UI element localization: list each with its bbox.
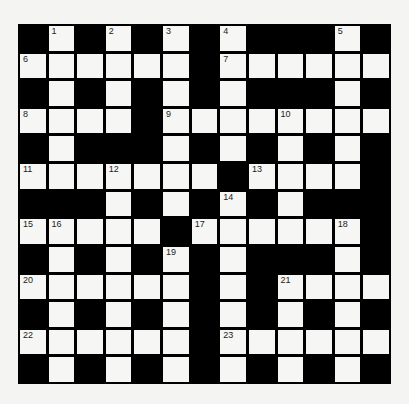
answer-cell[interactable] [306,109,332,134]
answer-cell[interactable] [249,219,275,244]
answer-cell[interactable]: 22 [20,330,46,355]
answer-cell[interactable] [220,357,246,382]
answer-cell[interactable] [134,219,160,244]
answer-cell[interactable]: 17 [192,219,218,244]
answer-cell[interactable] [192,164,218,189]
answer-cell[interactable] [335,81,361,106]
answer-cell[interactable] [363,109,389,134]
answer-cell[interactable] [278,192,304,217]
answer-cell[interactable]: 2 [106,26,132,51]
answer-cell[interactable] [77,275,103,300]
answer-cell[interactable]: 10 [278,109,304,134]
answer-cell[interactable] [77,109,103,134]
answer-cell[interactable] [278,54,304,79]
answer-cell[interactable]: 13 [249,164,275,189]
answer-cell[interactable] [335,247,361,272]
answer-cell[interactable] [278,219,304,244]
answer-cell[interactable] [163,164,189,189]
answer-cell[interactable] [249,330,275,355]
answer-cell[interactable] [220,81,246,106]
answer-cell[interactable] [363,330,389,355]
answer-cell[interactable] [278,136,304,161]
answer-cell[interactable] [335,330,361,355]
answer-cell[interactable] [278,302,304,327]
answer-cell[interactable] [220,219,246,244]
answer-cell[interactable] [335,109,361,134]
answer-cell[interactable] [163,275,189,300]
answer-cell[interactable] [134,164,160,189]
answer-cell[interactable] [163,54,189,79]
answer-cell[interactable]: 23 [220,330,246,355]
answer-cell[interactable] [220,247,246,272]
answer-cell[interactable] [49,330,75,355]
answer-cell[interactable] [106,54,132,79]
answer-cell[interactable] [49,357,75,382]
answer-cell[interactable]: 3 [163,26,189,51]
answer-cell[interactable]: 6 [20,54,46,79]
answer-cell[interactable] [49,136,75,161]
answer-cell[interactable] [49,275,75,300]
answer-cell[interactable]: 7 [220,54,246,79]
answer-cell[interactable] [363,54,389,79]
answer-cell[interactable] [106,357,132,382]
answer-cell[interactable] [278,357,304,382]
answer-cell[interactable] [220,136,246,161]
answer-cell[interactable] [220,302,246,327]
answer-cell[interactable] [163,81,189,106]
answer-cell[interactable] [49,109,75,134]
answer-cell[interactable] [335,164,361,189]
answer-cell[interactable] [106,302,132,327]
answer-cell[interactable] [106,247,132,272]
answer-cell[interactable] [192,109,218,134]
answer-cell[interactable] [163,330,189,355]
answer-cell[interactable] [249,109,275,134]
answer-cell[interactable] [49,164,75,189]
answer-cell[interactable] [306,219,332,244]
answer-cell[interactable] [49,81,75,106]
answer-cell[interactable]: 12 [106,164,132,189]
answer-cell[interactable]: 21 [278,275,304,300]
answer-cell[interactable]: 20 [20,275,46,300]
answer-cell[interactable] [77,54,103,79]
answer-cell[interactable] [49,302,75,327]
answer-cell[interactable]: 14 [220,192,246,217]
answer-cell[interactable]: 19 [163,247,189,272]
answer-cell[interactable] [77,164,103,189]
answer-cell[interactable]: 18 [335,219,361,244]
answer-cell[interactable]: 15 [20,219,46,244]
answer-cell[interactable] [335,275,361,300]
answer-cell[interactable] [163,192,189,217]
answer-cell[interactable] [163,136,189,161]
answer-cell[interactable]: 1 [49,26,75,51]
answer-cell[interactable]: 9 [163,109,189,134]
answer-cell[interactable] [249,54,275,79]
answer-cell[interactable] [335,357,361,382]
answer-cell[interactable] [306,164,332,189]
answer-cell[interactable] [134,54,160,79]
answer-cell[interactable]: 5 [335,26,361,51]
answer-cell[interactable] [335,302,361,327]
answer-cell[interactable] [306,330,332,355]
answer-cell[interactable] [134,275,160,300]
answer-cell[interactable] [106,109,132,134]
answer-cell[interactable] [106,81,132,106]
answer-cell[interactable] [49,247,75,272]
answer-cell[interactable]: 16 [49,219,75,244]
answer-cell[interactable] [49,54,75,79]
answer-cell[interactable]: 8 [20,109,46,134]
answer-cell[interactable] [306,275,332,300]
answer-cell[interactable] [220,275,246,300]
answer-cell[interactable] [220,109,246,134]
answer-cell[interactable] [106,330,132,355]
answer-cell[interactable] [163,357,189,382]
answer-cell[interactable] [306,54,332,79]
answer-cell[interactable] [77,219,103,244]
answer-cell[interactable] [106,219,132,244]
answer-cell[interactable] [106,275,132,300]
answer-cell[interactable] [77,330,103,355]
answer-cell[interactable]: 11 [20,164,46,189]
answer-cell[interactable] [335,54,361,79]
answer-cell[interactable] [363,275,389,300]
answer-cell[interactable] [335,136,361,161]
answer-cell[interactable] [278,330,304,355]
